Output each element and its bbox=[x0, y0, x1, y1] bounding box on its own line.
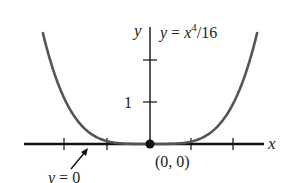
tick-label-one: 1 bbox=[124, 94, 132, 111]
x-axis-label: x bbox=[267, 134, 276, 153]
origin-label: (0, 0) bbox=[155, 153, 190, 171]
y-zero-arrow bbox=[71, 148, 88, 169]
plot-canvas: y x y = x4/16 1 y = 0 (0, 0) bbox=[0, 0, 302, 183]
y-axis-label: y bbox=[132, 21, 142, 40]
y-zero-label: y = 0 bbox=[46, 169, 80, 183]
function-label: y = x4/16 bbox=[158, 21, 217, 42]
origin-point bbox=[146, 140, 155, 149]
